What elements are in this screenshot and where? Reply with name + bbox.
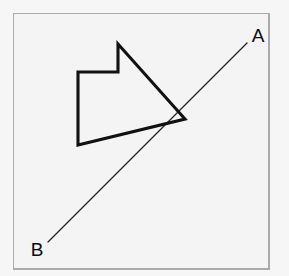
- geometry-figure: A B: [0, 0, 289, 276]
- grid-border: [14, 14, 270, 270]
- figure-canvas: A B: [0, 0, 289, 276]
- point-label-a: A: [252, 25, 265, 46]
- point-label-b: B: [31, 239, 44, 260]
